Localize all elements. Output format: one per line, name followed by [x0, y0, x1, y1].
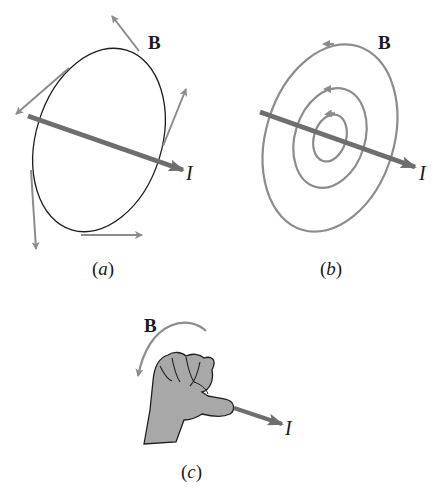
current-label-c: I: [285, 418, 292, 438]
current-label-a: I: [186, 163, 193, 183]
current-arrow-c: [234, 408, 282, 424]
panel-b: [241, 27, 420, 248]
hand-icon: [144, 352, 234, 444]
panel-c: [138, 323, 282, 444]
field-vector-a-2: [16, 68, 69, 114]
field-label-b: B: [378, 33, 391, 52]
caption-b: (b): [320, 259, 342, 278]
caption-c: (c): [181, 462, 202, 481]
field-label-c: B: [144, 316, 157, 335]
field-vector-a-3: [163, 89, 186, 146]
field-vector-a-1: [112, 16, 139, 51]
caption-a: (a): [92, 259, 114, 278]
current-arrow-b: [260, 112, 415, 167]
current-arrow-a: [28, 116, 183, 170]
field-label-a: B: [148, 33, 161, 52]
current-label-b: I: [419, 163, 426, 183]
figure-canvas: [0, 0, 441, 495]
field-direction-inner: [328, 113, 335, 114]
